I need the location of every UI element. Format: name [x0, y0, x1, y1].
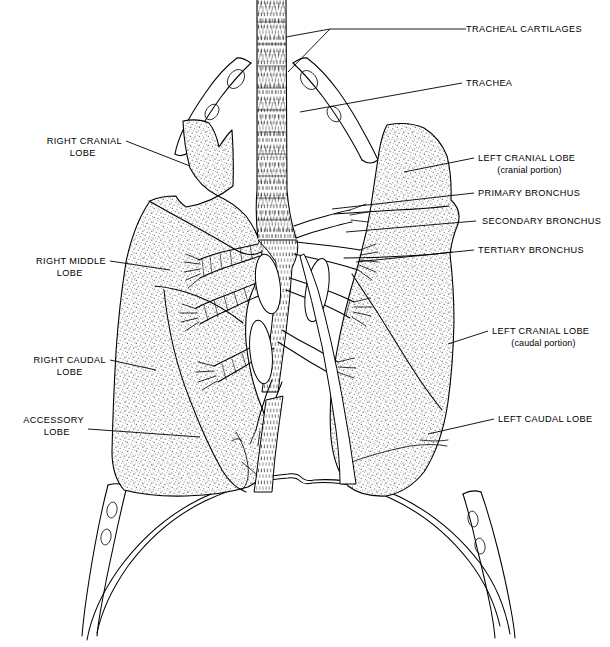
label-text: TERTIARY BRONCHUS [478, 245, 584, 255]
anatomical-figure: TRACHEAL CARTILAGESTRACHEALEFT CRANIAL L… [0, 0, 610, 647]
lung-anatomy-svg: TRACHEAL CARTILAGESTRACHEALEFT CRANIAL L… [0, 0, 610, 647]
label-text: LEFT CRANIAL LOBE [478, 153, 575, 163]
label-left-caudal-lobe: LEFT CAUDAL LOBE [498, 414, 592, 424]
label-subtext: LOBE [57, 268, 83, 278]
label-text: SECONDARY BRONCHUS [482, 216, 601, 226]
label-subtext: LOBE [57, 367, 83, 377]
label-text: ACCESSORY [23, 415, 84, 425]
label-trachea: TRACHEA [466, 78, 513, 88]
label-text: RIGHT CRANIAL [47, 136, 122, 146]
label-tertiary-bronchus: TERTIARY BRONCHUS [478, 245, 584, 255]
label-subtext: LOBE [70, 148, 96, 158]
label-text: LEFT CRANIAL LOBE [492, 326, 589, 336]
label-subtext: (cranial portion) [497, 165, 561, 175]
label-subtext: LOBE [44, 427, 70, 437]
label-text: RIGHT MIDDLE [36, 256, 106, 266]
label-tracheal-cartilages: TRACHEAL CARTILAGES [466, 24, 582, 34]
label-text: LEFT CAUDAL LOBE [498, 414, 592, 424]
label-primary-bronchus: PRIMARY BRONCHUS [478, 188, 580, 198]
figure-background [0, 0, 610, 647]
label-text: PRIMARY BRONCHUS [478, 188, 580, 198]
label-text: TRACHEAL CARTILAGES [466, 24, 582, 34]
label-text: TRACHEA [466, 78, 513, 88]
label-text: RIGHT CAUDAL [34, 355, 106, 365]
label-secondary-bronchus: SECONDARY BRONCHUS [482, 216, 601, 226]
label-subtext: (caudal portion) [511, 338, 575, 348]
